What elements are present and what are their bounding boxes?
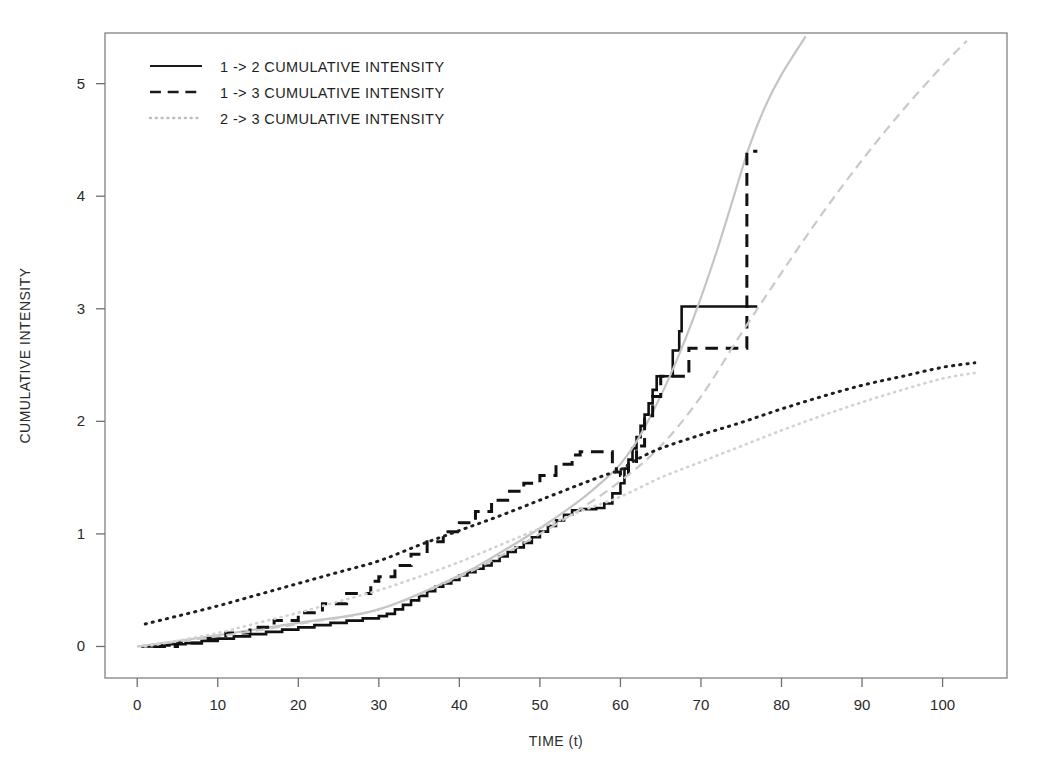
- x-tick-label: 10: [209, 696, 226, 713]
- x-tick-label: 70: [693, 696, 710, 713]
- series-line: [145, 373, 975, 647]
- y-tick-label: 3: [77, 300, 85, 317]
- y-tick-label: 2: [77, 412, 85, 429]
- series-line: [137, 36, 805, 646]
- x-axis-ticks: 0102030405060708090100: [133, 678, 955, 713]
- x-tick-label: 100: [930, 696, 955, 713]
- y-tick-label: 5: [77, 75, 85, 92]
- series-line: [145, 363, 975, 624]
- x-tick-label: 20: [290, 696, 307, 713]
- chart-legend: 1 -> 2 CUMULATIVE INTENSITY1 -> 3 CUMULA…: [150, 59, 444, 127]
- y-axis-title: CUMULATIVE INTENSITY: [17, 267, 33, 443]
- x-tick-label: 80: [773, 696, 790, 713]
- legend-label: 1 -> 3 CUMULATIVE INTENSITY: [220, 85, 444, 101]
- x-tick-label: 60: [612, 696, 629, 713]
- series-line: [153, 151, 757, 646]
- x-axis-title: TIME (t): [529, 733, 584, 749]
- data-series-layer: [137, 36, 975, 646]
- x-tick-label: 40: [451, 696, 468, 713]
- series-line: [137, 41, 967, 647]
- x-tick-label: 0: [133, 696, 141, 713]
- x-tick-label: 50: [532, 696, 549, 713]
- legend-label: 1 -> 2 CUMULATIVE INTENSITY: [220, 59, 444, 75]
- cumulative-intensity-chart: 0102030405060708090100 012345 1 -> 2 CUM…: [0, 0, 1040, 769]
- x-tick-label: 30: [370, 696, 387, 713]
- figure-canvas: 0102030405060708090100 012345 1 -> 2 CUM…: [0, 0, 1040, 769]
- y-tick-label: 0: [77, 637, 85, 654]
- y-tick-label: 1: [77, 525, 85, 542]
- legend-label: 2 -> 3 CUMULATIVE INTENSITY: [220, 111, 444, 127]
- y-axis-ticks: 012345: [77, 75, 105, 655]
- x-tick-label: 90: [854, 696, 871, 713]
- plot-frame: [105, 33, 1007, 678]
- y-tick-label: 4: [77, 187, 85, 204]
